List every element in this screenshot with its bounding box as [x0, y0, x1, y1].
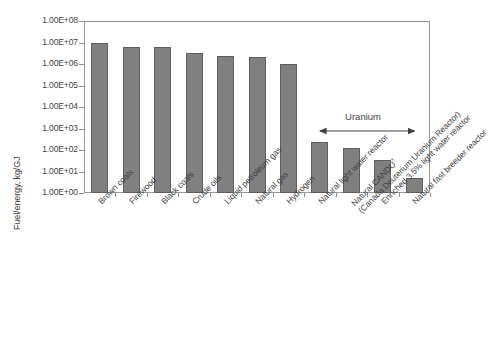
y-axis-tick-label: 1.00E+08: [20, 15, 78, 25]
y-axis-tick-label: 1.00E+07: [20, 37, 78, 47]
y-axis-tick-label: 1.00E+04: [20, 101, 78, 111]
y-axis-tick-label: 1.00E+05: [20, 80, 78, 90]
y-axis-tick-mark: [79, 64, 84, 65]
x-axis-tick-mark: [115, 193, 116, 197]
y-axis-tick-mark: [79, 172, 84, 173]
x-axis-tick-mark: [210, 193, 211, 197]
uranium-annotation-label: Uranium: [345, 111, 381, 122]
y-axis-tick-mark: [79, 193, 84, 194]
x-axis-tick-mark: [336, 193, 337, 197]
y-axis-tick-label: 1.00E+03: [20, 123, 78, 133]
x-axis-tick-mark: [304, 193, 305, 197]
bar: [217, 56, 234, 193]
y-axis-tick-mark: [79, 86, 84, 87]
uranium-span-arrow-icon: [313, 124, 421, 138]
y-axis-tick-label: 1.00E+00: [20, 187, 78, 197]
bar: [154, 47, 171, 193]
x-axis-tick-mark: [147, 193, 148, 197]
bar: [91, 43, 108, 194]
y-axis-tick-label: 1.00E+01: [20, 166, 78, 176]
x-axis-tick-mark: [399, 193, 400, 197]
y-axis-tick-mark: [79, 129, 84, 130]
y-axis-tick-mark: [79, 107, 84, 108]
bar: [311, 142, 328, 193]
y-axis-tick-label: 1.00E+06: [20, 58, 78, 68]
y-axis-tick-mark: [79, 150, 84, 151]
x-axis-tick-mark: [430, 193, 431, 197]
x-axis-tick-mark: [273, 193, 274, 197]
y-axis-tick-mark: [79, 43, 84, 44]
y-axis-tick-label: 1.00E+02: [20, 144, 78, 154]
y-axis-tick-mark: [79, 21, 84, 22]
